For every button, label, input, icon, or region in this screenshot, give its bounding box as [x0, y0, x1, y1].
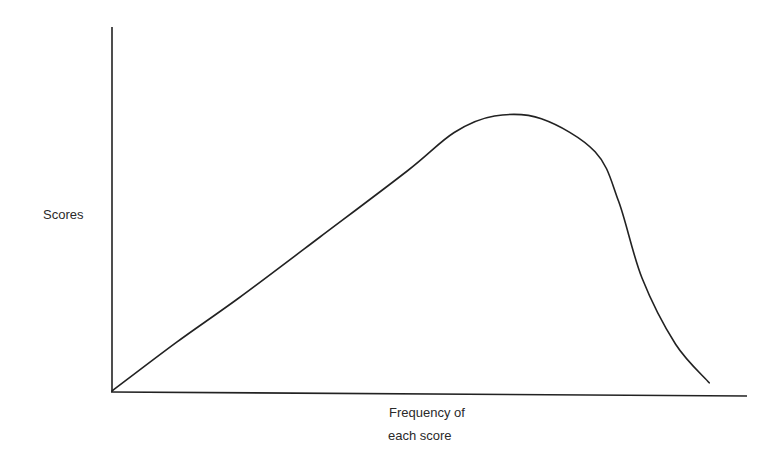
- series-line-curve: [112, 114, 709, 391]
- x-axis: [111, 392, 747, 396]
- chart: Scores Frequency of each score: [0, 0, 783, 475]
- x-axis-label-line-2: each score: [388, 428, 452, 443]
- x-axis-label-line-1: Frequency of: [389, 405, 465, 420]
- y-axis-label: Scores: [43, 207, 84, 222]
